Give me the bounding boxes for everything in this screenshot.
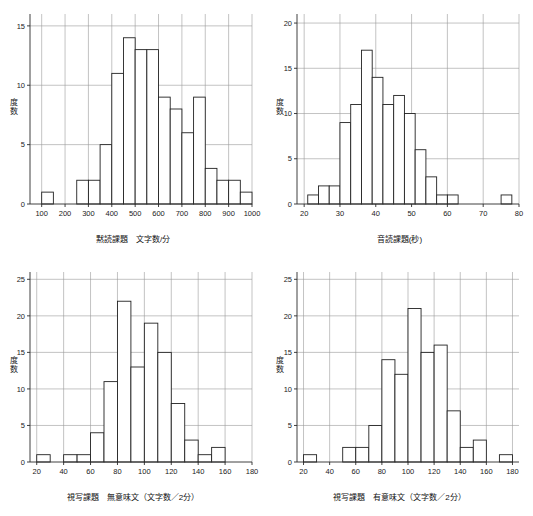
histogram-bar (369, 425, 382, 462)
x-tick-label: 160 (480, 467, 493, 476)
y-tick-label: 25 (17, 275, 25, 284)
histogram-bar (205, 168, 217, 204)
x-tick-label: 60 (352, 467, 360, 476)
histogram-svg-3: 051015202520406080100120140160180 (297, 272, 519, 476)
x-tick-label: 120 (428, 467, 441, 476)
y-tick-label: 20 (284, 19, 292, 28)
y-axis-title-0: 度 数 (7, 98, 21, 116)
histogram-bar (308, 195, 319, 204)
x-tick-label: 40 (372, 209, 380, 218)
histogram-bar (88, 180, 100, 204)
histogram-bar (361, 50, 372, 204)
histogram-bar (340, 123, 351, 204)
x-tick-label: 80 (378, 467, 386, 476)
x-tick-label: 40 (59, 467, 67, 476)
y-tick-label: 0 (21, 200, 25, 209)
y-tick-label: 15 (284, 348, 292, 357)
histogram-bar (104, 382, 117, 462)
histogram-bar (135, 50, 147, 204)
x-tick-label: 800 (199, 209, 212, 218)
histogram-bar (421, 352, 434, 462)
chart-panel-top-left: 度 数 051015100200300400500600700800900100… (0, 0, 266, 258)
histogram-bar (42, 192, 54, 204)
histogram-bar (426, 177, 437, 204)
x-axis-title-2: 視写課題 無意味文（文字数／2分） (0, 491, 266, 502)
histogram-bar (217, 180, 229, 204)
histogram-bar (100, 145, 112, 204)
histogram-bar (185, 440, 198, 462)
histogram-bar (194, 97, 206, 204)
histogram-bar (318, 186, 329, 204)
histogram-bar (351, 104, 362, 204)
y-axis-title-char-1: 数 (273, 365, 287, 374)
histogram-bar (144, 323, 157, 462)
y-tick-label: 5 (21, 140, 25, 149)
x-tick-label: 20 (299, 467, 307, 476)
histogram-bar (356, 447, 369, 462)
histogram-bar (91, 433, 104, 462)
x-tick-label: 140 (454, 467, 467, 476)
y-tick-label: 10 (284, 385, 292, 394)
y-tick-label: 5 (21, 421, 25, 430)
histogram-bar (395, 374, 408, 462)
x-tick-label: 30 (336, 209, 344, 218)
histogram-bar (415, 150, 426, 204)
histogram-bar (212, 447, 225, 462)
histogram-bar (77, 180, 89, 204)
y-axis-title-3: 度 数 (273, 356, 287, 374)
x-tick-label: 60 (86, 467, 94, 476)
histogram-bar (170, 109, 182, 204)
y-axis-title-char-1: 数 (7, 365, 21, 374)
histogram-bar (171, 404, 184, 462)
histogram-bar (37, 455, 50, 462)
histogram-bar (382, 360, 395, 462)
histogram-bar (117, 301, 130, 462)
histogram-bar (447, 411, 460, 462)
x-tick-label: 60 (443, 209, 451, 218)
x-tick-label: 80 (515, 209, 523, 218)
x-tick-label: 100 (138, 467, 151, 476)
histogram-bar (229, 180, 241, 204)
histogram-bar (473, 440, 486, 462)
x-tick-label: 700 (176, 209, 189, 218)
histogram-bar (499, 455, 512, 462)
x-tick-label: 600 (152, 209, 165, 218)
figure-caption (0, 507, 533, 516)
y-tick-label: 0 (21, 458, 25, 467)
x-tick-label: 20 (300, 209, 308, 218)
y-axis-title-2: 度 数 (7, 356, 21, 374)
x-tick-label: 80 (113, 467, 121, 476)
x-tick-label: 50 (407, 209, 415, 218)
histogram-bar (240, 192, 252, 204)
histogram-bar (304, 455, 317, 462)
histogram-bar (147, 50, 159, 204)
x-tick-label: 900 (222, 209, 235, 218)
y-axis-title-char-0: 度 (273, 356, 287, 365)
histogram-bar (383, 104, 394, 204)
histogram-bar (198, 455, 211, 462)
plot-area-2: 051015202520406080100120140160180 (30, 272, 252, 476)
y-tick-label: 10 (17, 81, 25, 90)
histogram-svg-2: 051015202520406080100120140160180 (30, 272, 252, 476)
x-tick-label: 1000 (244, 209, 261, 218)
histogram-bar (434, 345, 447, 462)
x-tick-label: 100 (402, 467, 415, 476)
histogram-svg-0: 0510151002003004005006007008009001000 (30, 14, 252, 218)
histogram-bar (182, 133, 194, 204)
histogram-bar (158, 352, 171, 462)
x-tick-label: 120 (165, 467, 178, 476)
x-tick-label: 160 (219, 467, 232, 476)
histogram-bar (64, 455, 77, 462)
x-tick-label: 400 (106, 209, 119, 218)
y-tick-label: 5 (288, 421, 292, 430)
x-tick-label: 500 (129, 209, 142, 218)
y-axis-title-char-0: 度 (7, 356, 21, 365)
y-axis-title-char-1: 数 (7, 107, 21, 116)
x-tick-label: 140 (192, 467, 205, 476)
plot-area-3: 051015202520406080100120140160180 (297, 272, 519, 476)
y-tick-label: 10 (17, 385, 25, 394)
x-tick-label: 20 (33, 467, 41, 476)
x-tick-label: 200 (59, 209, 72, 218)
y-tick-label: 10 (284, 109, 292, 118)
y-tick-label: 0 (288, 200, 292, 209)
